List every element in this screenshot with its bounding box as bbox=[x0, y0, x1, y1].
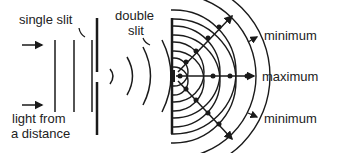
circular-wavefront bbox=[110, 69, 113, 84]
minimum-bottom-pointer bbox=[248, 113, 257, 117]
maximum-label: maximum bbox=[262, 69, 318, 84]
single-slit-pointer bbox=[79, 28, 85, 37]
circular-wavefront bbox=[143, 47, 151, 105]
double-slit-openings bbox=[170, 70, 175, 82]
double-slit-pointer bbox=[143, 38, 150, 45]
double-slit-diagram: single slit double slit light from a dis… bbox=[0, 0, 337, 153]
minimum-top-pointer bbox=[248, 37, 257, 42]
light-source-label-line1: light from bbox=[12, 111, 65, 126]
circular-wavefront bbox=[162, 40, 171, 112]
double-slit-label-line2: slit bbox=[128, 23, 144, 38]
minimum-bottom-label: minimum bbox=[264, 111, 317, 126]
circular-wavefront bbox=[127, 57, 133, 95]
double-slit-label-line1: double bbox=[115, 8, 154, 23]
minimum-top-label: minimum bbox=[264, 28, 317, 43]
single-slit-label: single slit bbox=[19, 12, 73, 27]
light-source-label-line2: a distance bbox=[11, 126, 70, 141]
